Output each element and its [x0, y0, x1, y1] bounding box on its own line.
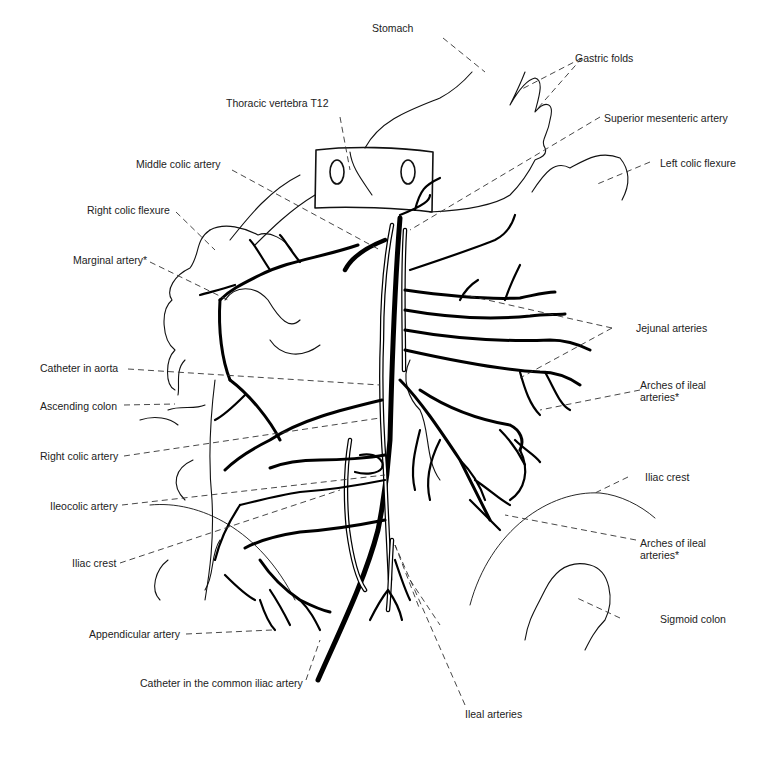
label-ascending-colon: Ascending colon: [40, 400, 117, 412]
label-superior-mesenteric-artery: Superior mesenteric artery: [604, 112, 728, 124]
label-arches-upper-line1: Arches of ileal: [640, 379, 706, 391]
label-gastric-folds: Gastric folds: [575, 52, 633, 64]
stomach-outline: [365, 72, 551, 212]
label-catheter-in-aorta: Catheter in aorta: [40, 362, 118, 374]
label-left-colic-flexure: Left colic flexure: [660, 157, 736, 169]
label-iliac-crest-left: Iliac crest: [645, 471, 689, 483]
small-intestine-outline: [225, 289, 440, 480]
label-jejunal-arteries: Jejunal arteries: [636, 322, 707, 334]
label-middle-colic-artery: Middle colic artery: [136, 158, 221, 170]
lower-ileal-branches: [370, 540, 410, 620]
label-right-colic-flexure: Right colic flexure: [87, 204, 170, 216]
left-colic-flexure-outline: [532, 155, 628, 200]
jejunal-artery-vessels: [405, 215, 590, 415]
vertebra-t12: [315, 148, 433, 212]
leader-lines: [120, 38, 650, 705]
label-right-colic-artery: Right colic artery: [40, 450, 118, 462]
ileal-artery-vessels: [400, 380, 540, 530]
label-arches-upper-line2: arteries*: [640, 391, 706, 403]
label-ileal-arteries: Ileal arteries: [465, 708, 522, 720]
right-colon-outline: [140, 175, 315, 600]
middle-colic-artery-vessels: [200, 235, 385, 380]
label-sigmoid-colon: Sigmoid colon: [660, 613, 726, 625]
label-arches-lower-line2: arteries*: [640, 549, 706, 561]
sigmoid-colon-outline: [525, 564, 610, 650]
label-thoracic-vertebra-t12: Thoracic vertebra T12: [226, 97, 329, 109]
label-catheter-common-iliac: Catheter in the common iliac artery: [140, 677, 303, 689]
label-appendicular-artery: Appendicular artery: [89, 628, 180, 640]
right-colic-ileocolic-vessels: [215, 380, 385, 630]
iliac-crest-right-arc: [150, 504, 295, 600]
label-ileocolic-artery: Ileocolic artery: [50, 500, 118, 512]
label-arches-of-ileal-arteries-upper: Arches of ileal arteries*: [640, 379, 706, 403]
label-marginal-artery: Marginal artery*: [73, 254, 147, 266]
label-iliac-crest-right: Iliac crest: [72, 557, 116, 569]
label-arches-lower-line1: Arches of ileal: [640, 537, 706, 549]
label-arches-of-ileal-arteries-lower: Arches of ileal arteries*: [640, 537, 706, 561]
label-stomach: Stomach: [372, 22, 413, 34]
iliac-crest-left-arc: [470, 493, 655, 605]
